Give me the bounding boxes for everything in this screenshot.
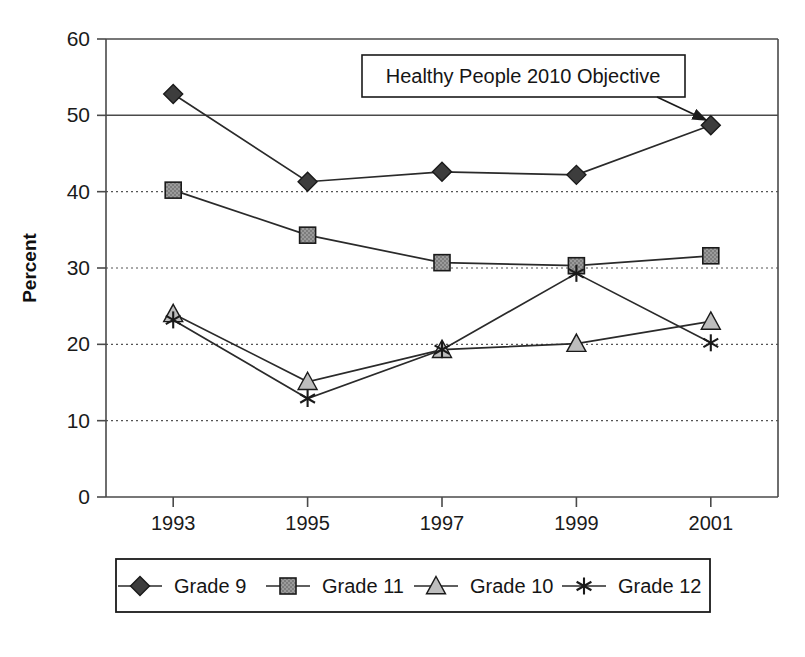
data-point-marker [165, 182, 181, 198]
data-point-marker [434, 255, 450, 271]
chart-legend: Grade 9Grade 11Grade 10Grade 12 [116, 559, 710, 612]
y-tick-label: 30 [67, 256, 90, 279]
y-tick-label: 50 [67, 103, 90, 126]
legend-label: Grade 12 [618, 575, 701, 597]
annotation-label: Healthy People 2010 Objective [386, 65, 661, 87]
y-tick-label: 20 [67, 332, 90, 355]
y-tick-label: 40 [67, 180, 90, 203]
y-tick-label: 60 [67, 27, 90, 50]
line-chart: 0102030405060 19931995199719992001 Perce… [0, 0, 805, 657]
y-axis-ticks: 0102030405060 [67, 27, 106, 508]
x-tick-label: 1999 [554, 512, 599, 534]
x-tick-label: 1995 [285, 512, 330, 534]
data-point-marker [300, 227, 316, 243]
chart-figure: 0102030405060 19931995199719992001 Perce… [0, 0, 805, 657]
legend-label: Grade 11 [322, 575, 404, 597]
legend-item-grade-9[interactable]: Grade 9 [118, 575, 246, 597]
legend-item-grade-10[interactable]: Grade 10 [414, 575, 553, 597]
legend-marker-square-icon [280, 578, 296, 594]
y-tick-label: 10 [67, 409, 90, 432]
y-axis-title: Percent [19, 232, 40, 302]
x-tick-label: 2001 [689, 512, 734, 534]
x-tick-label: 1993 [151, 512, 196, 534]
y-tick-label: 0 [78, 485, 90, 508]
legend-label: Grade 9 [174, 575, 246, 597]
x-axis-ticks: 19931995199719992001 [151, 497, 733, 534]
legend-item-grade-11[interactable]: Grade 11 [266, 575, 404, 597]
legend-label: Grade 10 [470, 575, 553, 597]
x-tick-label: 1997 [420, 512, 465, 534]
data-point-marker [703, 248, 719, 264]
